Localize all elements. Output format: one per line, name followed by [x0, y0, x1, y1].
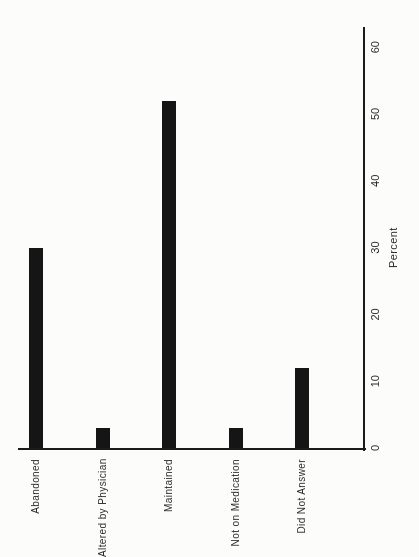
bar-altered-by-physician	[96, 428, 110, 448]
percent-tick-20: 20	[369, 299, 381, 329]
percent-axis-line	[363, 27, 365, 451]
percent-axis-title: Percent	[387, 188, 399, 308]
bar-not-on-medication	[229, 428, 243, 448]
percent-tick-0: 0	[369, 433, 381, 463]
scanned-page: AbandonedAltered by PhysicianMaintainedN…	[0, 0, 419, 557]
category-label-altered-by-physician: Altered by Physician	[96, 459, 110, 557]
percent-tick-40: 40	[369, 166, 381, 196]
category-label-abandoned: Abandoned	[29, 459, 43, 557]
percent-tick-10: 10	[369, 366, 381, 396]
percent-tick-50: 50	[369, 99, 381, 129]
percent-tick-30: 30	[369, 233, 381, 263]
bar-maintained	[162, 101, 176, 448]
category-label-did-not-answer: Did Not Answer	[295, 459, 309, 557]
category-axis-line	[18, 448, 366, 450]
percent-tick-60: 60	[369, 32, 381, 62]
category-label-maintained: Maintained	[162, 459, 176, 557]
bar-chart: AbandonedAltered by PhysicianMaintainedN…	[0, 0, 419, 557]
bar-abandoned	[29, 248, 43, 448]
category-label-not-on-medication: Not on Medication	[229, 459, 243, 557]
bar-did-not-answer	[295, 368, 309, 448]
